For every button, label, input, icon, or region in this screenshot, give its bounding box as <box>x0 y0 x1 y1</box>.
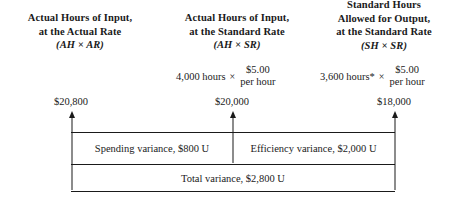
amount-standard-hours-standard-rate: $18,000 <box>377 96 411 107</box>
computation-standard-hours-standard-rate: 3,600 hours* × $5.00 per hour <box>320 64 425 88</box>
rate-value: $5.00 per hour <box>389 64 424 88</box>
column-header-actual-hours-actual-rate: Actual Hours of Input, at the Actual Rat… <box>0 11 160 52</box>
column-header-line-1: Actual Hours of Input, <box>157 11 317 25</box>
variance-analysis-diagram: Actual Hours of Input, at the Actual Rat… <box>0 0 465 201</box>
hours-value: 3,600 hours* <box>320 71 379 82</box>
column-header-actual-hours-standard-rate: Actual Hours of Input, at the Standard R… <box>157 11 317 52</box>
column-header-line-2: at the Standard Rate <box>157 25 317 39</box>
total-variance-label: Total variance, $2,800 U <box>181 173 285 184</box>
column-header-abbreviation: (AH × AR) <box>0 38 160 52</box>
column-header-line-2: Allowed for Output, <box>303 12 465 26</box>
efficiency-variance-box: Efficiency variance, $2,000 U <box>232 132 395 165</box>
rate-numerator: $5.00 <box>240 64 275 76</box>
column-header-line-1: Actual Hours of Input, <box>0 11 160 25</box>
rate-value: $5.00 per hour <box>240 64 275 88</box>
rate-denominator: per hour <box>240 76 275 88</box>
efficiency-variance-label: Efficiency variance, $2,000 U <box>250 143 376 154</box>
multiply-icon: × <box>379 71 390 82</box>
column-header-line-2: at the Actual Rate <box>0 25 160 39</box>
hours-value: 4,000 hours <box>176 71 230 82</box>
column-header-standard-hours-standard-rate: Standard Hours Allowed for Output, at th… <box>303 0 465 52</box>
spending-variance-box: Spending variance, $800 U <box>71 132 233 165</box>
multiply-icon: × <box>230 71 241 82</box>
amount-actual-hours-standard-rate: $20,000 <box>215 96 249 107</box>
column-header-abbreviation: (SH × SR) <box>303 39 465 53</box>
total-variance-box: Total variance, $2,800 U <box>71 164 395 192</box>
computation-actual-hours-standard-rate: 4,000 hours × $5.00 per hour <box>176 64 276 88</box>
spending-variance-label: Spending variance, $800 U <box>95 143 209 154</box>
column-header-line-3: at the Standard Rate <box>303 25 465 39</box>
rate-denominator: per hour <box>389 76 424 88</box>
amount-actual-hours-actual-rate: $20,800 <box>54 96 88 107</box>
rate-numerator: $5.00 <box>389 64 424 76</box>
column-header-abbreviation: (AH × SR) <box>157 38 317 52</box>
column-header-line-1: Standard Hours <box>303 0 465 12</box>
